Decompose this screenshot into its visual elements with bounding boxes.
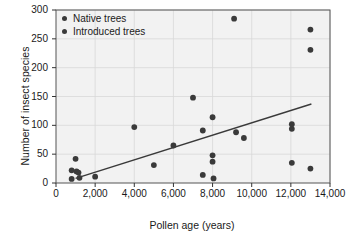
legend-item-native: Native trees	[62, 13, 145, 24]
y-tick-label: 250	[14, 33, 48, 44]
legend-marker-icon	[62, 16, 67, 21]
data-point	[241, 135, 247, 141]
data-point	[151, 162, 157, 168]
y-tick-label: 50	[14, 148, 48, 159]
y-tick-label: 100	[14, 119, 48, 130]
x-tick-label: 14,000	[300, 188, 354, 199]
y-tick-label: 0	[14, 177, 48, 188]
scatter-plot-figure: Number of insect species Pollen age (yea…	[0, 0, 354, 238]
legend-label-native: Native trees	[73, 13, 126, 24]
legend-item-introduced: Introduced trees	[62, 26, 145, 37]
data-point	[73, 156, 79, 162]
data-point	[190, 95, 196, 101]
legend-label-introduced: Introduced trees	[73, 26, 145, 37]
x-axis-label: Pollen age (years)	[0, 219, 354, 231]
y-axis-label: Number of insect species	[19, 21, 31, 191]
data-point	[210, 152, 216, 158]
data-point	[200, 128, 206, 134]
y-tick-label: 300	[14, 4, 48, 15]
data-point	[231, 16, 237, 22]
data-point	[131, 124, 137, 130]
data-point	[69, 176, 75, 182]
x-axis-label-text: Pollen age (years)	[119, 219, 234, 231]
data-point	[289, 160, 295, 166]
plot-canvas	[0, 0, 354, 238]
data-point	[200, 172, 206, 178]
y-tick-label: 150	[14, 91, 48, 102]
data-point	[77, 175, 83, 181]
data-point	[289, 126, 295, 132]
data-point	[210, 114, 216, 120]
data-point	[211, 175, 217, 181]
legend: Native trees Introduced trees	[62, 13, 145, 39]
data-point	[76, 170, 82, 176]
data-point	[308, 166, 314, 172]
data-point	[233, 129, 239, 135]
data-point	[308, 27, 314, 33]
data-point	[308, 47, 314, 53]
data-point	[92, 174, 98, 180]
data-point	[210, 159, 216, 165]
legend-marker-icon	[62, 29, 67, 34]
data-point	[69, 167, 75, 173]
y-tick-label: 200	[14, 62, 48, 73]
data-point	[171, 143, 177, 149]
